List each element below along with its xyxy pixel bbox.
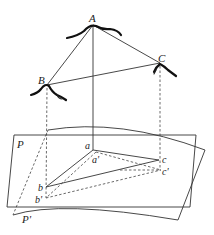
- label-c: c: [162, 154, 167, 165]
- terrain-marks: [31, 26, 176, 100]
- label-A: A: [88, 12, 96, 24]
- label-plane-P-prime: P': [21, 213, 32, 225]
- edge-a-c: [93, 150, 159, 160]
- terrain-c: [154, 64, 176, 76]
- projected-triangle-p-prime: [46, 152, 161, 198]
- plane-p-prime-top-edge: [48, 127, 205, 150]
- projection-diagram: A B C P P' a a' b b' c c': [0, 0, 214, 235]
- edge-bc: [47, 63, 160, 85]
- edge-b-prime-c-prime: [46, 170, 161, 198]
- label-b-prime: b': [35, 194, 43, 205]
- plane-p-prime: [13, 127, 205, 220]
- projection-line-b: [46, 88, 47, 198]
- label-a-prime: a': [92, 154, 100, 165]
- edge-ac: [93, 25, 160, 63]
- label-b: b: [38, 182, 43, 193]
- label-plane-P: P: [16, 138, 24, 150]
- terrain-b: [31, 85, 66, 100]
- ground-triangle: [47, 25, 160, 85]
- plane-p-prime-bottom-edge: [13, 209, 178, 220]
- edge-ab: [47, 25, 93, 85]
- label-C: C: [158, 52, 166, 64]
- projected-triangle-p: [46, 150, 159, 187]
- projection-lines: [46, 25, 160, 198]
- label-B: B: [38, 74, 45, 86]
- label-a: a: [85, 140, 90, 151]
- edge-a-prime-b-prime: [46, 152, 96, 198]
- label-c-prime: c': [162, 166, 169, 177]
